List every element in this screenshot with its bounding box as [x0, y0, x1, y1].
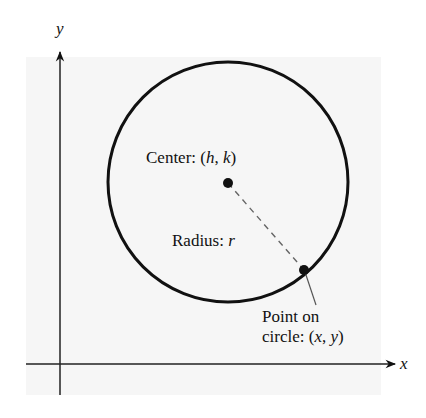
center-label-prefix: Center: ( [146, 148, 206, 167]
circle-point [299, 265, 309, 275]
radius-prefix: Radius: [172, 231, 228, 250]
center-k: k [223, 148, 231, 167]
center-sep: , [214, 148, 223, 167]
y-axis-label: y [56, 20, 64, 37]
radius-var: r [228, 231, 235, 250]
point-prefix: circle: ( [262, 327, 314, 346]
radius-label: Radius: r [172, 232, 235, 249]
center-suffix: ) [231, 148, 237, 167]
center-label: Center: (h, k) [146, 149, 236, 166]
diagram-graphics [0, 0, 426, 418]
point-label-line1: Point on [262, 308, 319, 325]
leader-line [305, 272, 316, 305]
x-axis-label: x [400, 355, 408, 372]
center-point [223, 178, 233, 188]
point-label-line2: circle: (x, y) [262, 328, 344, 345]
point-suffix: ) [338, 327, 344, 346]
point-line1: Point on [262, 307, 319, 326]
point-x: x [314, 327, 322, 346]
radius-line [228, 183, 304, 270]
circle-diagram: y x Center: (h, k) Radius: r Point on ci… [0, 0, 426, 418]
point-y: y [330, 327, 338, 346]
